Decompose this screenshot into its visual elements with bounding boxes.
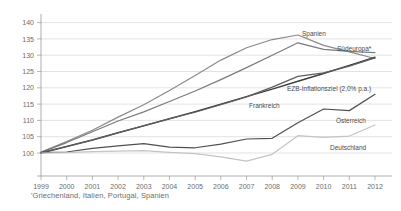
- y-axis-tick-labels-group: 100105110115120125130135140: [22, 19, 34, 156]
- series-line-Suedeuropa: [41, 43, 375, 153]
- x-axis-tick-labels-group: 1999200020012002200320042005200620072008…: [33, 183, 383, 190]
- y-tick-label-120: 120: [22, 84, 34, 91]
- x-tick-label-2011: 2011: [342, 183, 357, 190]
- x-axis-ticks-group: [41, 176, 375, 180]
- x-tick-label-2009: 2009: [290, 183, 306, 190]
- series-label-Oesterreich: Österreich: [336, 117, 366, 124]
- x-tick-label-2007: 2007: [239, 183, 255, 190]
- series-label-Frankreich: Frankreich: [249, 102, 280, 109]
- y-tick-label-100: 100: [22, 150, 34, 157]
- y-tick-label-115: 115: [23, 101, 34, 108]
- x-tick-label-2010: 2010: [316, 183, 332, 190]
- x-tick-label-2001: 2001: [85, 183, 101, 190]
- series-label-Deutschland: Deutschland: [330, 144, 367, 151]
- series-line-Frankreich: [41, 58, 375, 153]
- x-tick-label-2005: 2005: [187, 183, 203, 190]
- line-chart-container: 100105110115120125130135140 199920002001…: [0, 0, 401, 211]
- chart-plot-area: 100105110115120125130135140 199920002001…: [0, 0, 401, 211]
- x-tick-label-2004: 2004: [162, 183, 178, 190]
- y-tick-label-110: 110: [23, 117, 34, 124]
- series-label-Spanien: Spanien: [302, 30, 326, 38]
- data-series-group: [41, 35, 375, 161]
- x-tick-label-2012: 2012: [367, 183, 383, 190]
- series-line-Oesterreich: [41, 94, 375, 152]
- x-tick-label-2008: 2008: [264, 183, 280, 190]
- x-tick-label-2003: 2003: [136, 183, 152, 190]
- x-tick-label-2002: 2002: [110, 183, 126, 190]
- y-tick-label-105: 105: [22, 133, 34, 140]
- x-tick-label-2000: 2000: [59, 183, 75, 190]
- series-label-EZB-Inflationsziel: EZB-Inflationsziel (2,0% p.a.): [287, 85, 371, 93]
- chart-footnote: 'Griechenland, Italien, Portugal, Spanie…: [31, 191, 169, 200]
- y-tick-label-140: 140: [22, 19, 34, 26]
- y-tick-label-125: 125: [22, 68, 34, 75]
- x-tick-label-2006: 2006: [213, 183, 229, 190]
- series-line-Spanien: [41, 35, 375, 152]
- series-label-Suedeuropa: Südeuropa*: [337, 45, 372, 53]
- y-tick-label-135: 135: [22, 36, 34, 43]
- y-tick-label-130: 130: [22, 52, 34, 59]
- x-tick-label-1999: 1999: [33, 183, 49, 190]
